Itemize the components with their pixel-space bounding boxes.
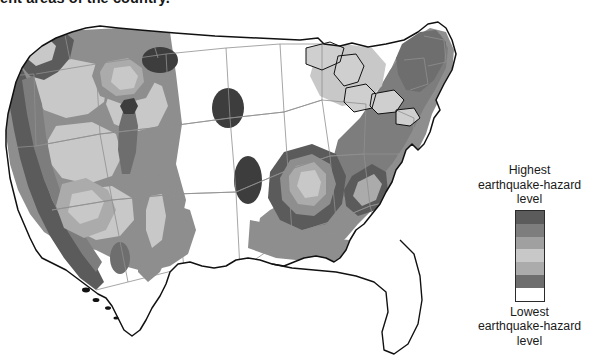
hazard-node-montana xyxy=(142,47,178,73)
legend-band-7-highest xyxy=(516,211,544,224)
legend-top-label-line-3: level xyxy=(466,192,593,207)
hazard-node-central-oklahoma xyxy=(234,156,262,204)
legend-band-4 xyxy=(516,249,544,262)
legend-band-2 xyxy=(516,275,544,288)
legend-bottom-label-line-2: earthquake-hazard xyxy=(466,319,593,334)
hazard-region-florida-gulf-lowest xyxy=(246,262,420,354)
legend-top-label: Highest earthquake-hazard level xyxy=(466,163,593,207)
legend-band-3 xyxy=(516,262,544,275)
earthquake-hazard-figure: ent areas of the country. xyxy=(0,0,593,362)
hazard-map xyxy=(0,14,470,362)
legend-band-6 xyxy=(516,224,544,237)
legend-bottom-label-line-1: Lowest xyxy=(466,305,593,320)
legend-bottom-label: Lowest earthquake-hazard level xyxy=(466,305,593,349)
legend-band-5 xyxy=(516,237,544,250)
figure-caption: ent areas of the country. xyxy=(0,0,300,13)
hazard-color-layers xyxy=(0,14,470,362)
figure-caption-text: ent areas of the country. xyxy=(0,0,170,6)
hazard-region-charleston-sc xyxy=(388,192,420,228)
legend-top-label-line-2: earthquake-hazard xyxy=(466,178,593,193)
hazard-legend: Highest earthquake-hazard level Lowest e… xyxy=(466,163,593,349)
legend-top-label-line-1: Highest xyxy=(466,163,593,178)
hazard-node-black-hills xyxy=(212,88,244,128)
legend-bottom-label-line-3: level xyxy=(466,334,593,349)
hazard-map-svg xyxy=(0,14,470,362)
legend-band-1-lowest xyxy=(516,288,544,301)
hazard-node-southwest xyxy=(110,242,130,274)
legend-color-bar xyxy=(515,210,545,302)
